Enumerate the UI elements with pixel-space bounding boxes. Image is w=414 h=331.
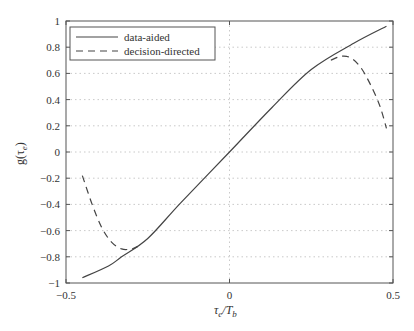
y-tick-label: 0.6 bbox=[46, 67, 60, 79]
x-tick-label: 0 bbox=[227, 289, 233, 301]
y-tick-label: −0.2 bbox=[40, 172, 60, 184]
y-tick-label: −0.6 bbox=[40, 225, 60, 237]
legend-label-decision-directed: decision-directed bbox=[124, 45, 200, 57]
y-tick-label: 0 bbox=[55, 146, 61, 158]
y-axis-label: g(τe) bbox=[13, 142, 29, 165]
legend-label-data-aided: data-aided bbox=[124, 31, 170, 43]
y-tick-label: −1 bbox=[48, 277, 60, 289]
x-axis-label: τe/Tb bbox=[214, 303, 237, 319]
y-tick-label: 0.2 bbox=[46, 120, 60, 132]
x-tick-label: 0.5 bbox=[386, 289, 400, 301]
x-tick-label: −0.5 bbox=[56, 289, 76, 301]
y-tick-label: −0.4 bbox=[40, 198, 60, 210]
decision-directed-line bbox=[331, 56, 387, 128]
decision-directed-line bbox=[82, 176, 138, 250]
line-chart: −1−0.8−0.6−0.4−0.200.20.40.60.81−0.500.5… bbox=[0, 0, 414, 331]
y-tick-label: −0.8 bbox=[40, 251, 60, 263]
y-tick-label: 1 bbox=[55, 15, 61, 27]
y-tick-label: 0.8 bbox=[46, 41, 60, 53]
legend: data-aided decision-directed bbox=[70, 27, 215, 60]
y-tick-label: 0.4 bbox=[46, 94, 60, 106]
